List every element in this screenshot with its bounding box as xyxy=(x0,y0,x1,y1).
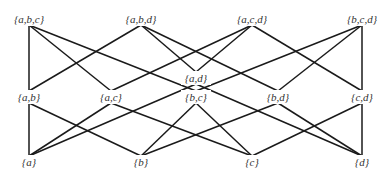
edge-abd-ad xyxy=(141,25,196,72)
node-ad: {a,d} xyxy=(181,71,211,85)
node-label: {b,d} xyxy=(267,91,290,103)
edge-abc-bc xyxy=(29,25,196,91)
edge-abd-ab xyxy=(29,25,141,91)
node-label: {a,c,d} xyxy=(237,13,268,25)
node-label: {b,c,d} xyxy=(347,13,378,25)
node-ac: {a,c} xyxy=(96,90,126,104)
node-label: {a,b} xyxy=(18,91,41,103)
node-abd: {a,b,d} xyxy=(120,12,161,26)
node-b: {b} xyxy=(132,155,151,169)
node-c: {c} xyxy=(243,155,262,169)
edge-abc-ac xyxy=(29,25,111,91)
node-abc: {a,b,c} xyxy=(8,12,49,26)
node-acd: {a,c,d} xyxy=(231,12,272,26)
edge-bd-b xyxy=(141,103,278,156)
edge-bcd-bd xyxy=(278,25,362,91)
node-a: {a} xyxy=(20,155,39,169)
edge-acd-cd xyxy=(252,25,362,91)
hasse-diagram: {a,b,c}{a,b,d}{a,c,d}{b,c,d}{a,d}{a,b}{a… xyxy=(0,0,387,185)
node-bc: {b,c} xyxy=(181,90,211,104)
node-label: {b,c} xyxy=(185,91,208,103)
node-label: {b} xyxy=(134,156,149,168)
edge-ac-a xyxy=(29,103,111,156)
node-label: {a} xyxy=(22,156,37,168)
node-ab: {a,b} xyxy=(14,90,44,104)
node-label: {a,b,c} xyxy=(14,13,45,25)
edge-bcd-bc xyxy=(196,25,362,91)
nodes-layer: {a,b,c}{a,b,d}{a,c,d}{b,c,d}{a,d}{a,b}{a… xyxy=(8,12,382,169)
edge-bc-c xyxy=(196,103,252,156)
node-label: {a,b,d} xyxy=(126,13,157,25)
node-label: {a,d} xyxy=(185,72,208,84)
node-cd: {c,d} xyxy=(347,90,377,104)
node-label: {c,d} xyxy=(351,91,374,103)
edge-bc-b xyxy=(141,103,196,156)
node-label: {c} xyxy=(245,156,259,168)
node-label: {a,c} xyxy=(100,91,123,103)
node-bd: {b,d} xyxy=(263,90,293,104)
node-d: {d} xyxy=(353,155,372,169)
edge-bd-d xyxy=(278,103,362,156)
node-label: {d} xyxy=(355,156,370,168)
node-bcd: {b,c,d} xyxy=(341,12,382,26)
